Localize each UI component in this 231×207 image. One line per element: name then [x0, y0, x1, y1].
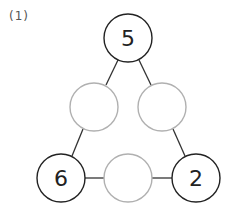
edge-top-right: [139, 60, 151, 85]
number-triangle-diagram: 5 6 2: [0, 0, 231, 207]
edge-right-bottom: [173, 129, 185, 156]
edge-left-bottom: [72, 129, 83, 156]
circle-top: 5: [104, 14, 152, 62]
circle-bottom-left-value: 6: [54, 166, 68, 191]
circle-right-middle[interactable]: [138, 83, 186, 131]
circle-bottom-right: 2: [172, 154, 220, 202]
edge-top-left: [106, 60, 118, 85]
circle-bottom-middle[interactable]: [104, 154, 152, 202]
circle-top-value: 5: [121, 26, 135, 51]
circle-bottom-left: 6: [37, 154, 85, 202]
circle-bottom-right-value: 2: [189, 166, 203, 191]
circle-left-middle[interactable]: [70, 83, 118, 131]
